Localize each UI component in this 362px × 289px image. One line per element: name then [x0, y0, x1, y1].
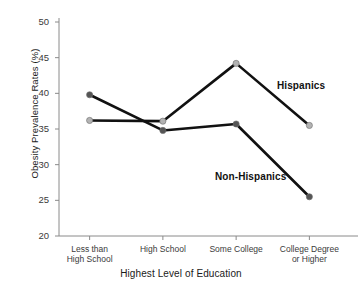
y-tick-label: 45 — [23, 53, 49, 63]
y-tick-label: 50 — [23, 17, 49, 27]
obesity-prevalence-line-chart: Obesity Prevalence Rates (%) 20253035404… — [0, 0, 362, 289]
y-tick-label: 35 — [23, 124, 49, 134]
series-label-hispanics: Hispanics — [277, 80, 325, 91]
y-tick-label: 40 — [23, 88, 49, 98]
y-tick-label: 25 — [23, 195, 49, 205]
y-tick-label: 20 — [23, 231, 49, 241]
y-tick-label: 30 — [23, 160, 49, 170]
x-tick-label: College Degreeor Higher — [261, 244, 357, 264]
x-axis-title: Highest Level of Education — [0, 268, 362, 279]
series-label-non-hispanics: Non-Hispanics — [215, 171, 286, 182]
tick-marks — [55, 22, 309, 240]
